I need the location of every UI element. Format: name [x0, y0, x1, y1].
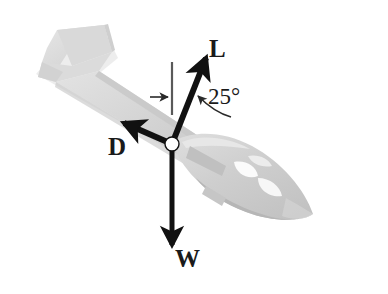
force-origin-point: [165, 137, 179, 151]
lift-vector-label: L: [209, 36, 226, 61]
drag-vector-label: D: [108, 134, 126, 159]
glider-force-diagram: L D W 25°: [0, 0, 388, 294]
weight-vector-label: W: [175, 246, 200, 271]
angle-value-label: 25°: [208, 85, 240, 108]
